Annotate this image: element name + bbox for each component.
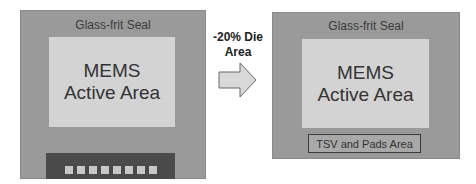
right-active-area: MEMS Active Area [302,39,429,128]
left-active-area: MEMS Active Area [49,37,175,127]
left-active-line1: MEMS [84,60,141,82]
transition-line2: Area [207,45,269,60]
bond-pad [77,166,85,174]
left-pad-bar [46,153,175,179]
bond-pad [149,166,157,174]
right-seal-label: Glass-frit Seal [272,19,460,33]
left-active-line2: Active Area [64,82,160,104]
tsv-pads-area: TSV and Pads Area [308,134,421,153]
left-seal-label: Glass-frit Seal [20,18,206,32]
bond-pad [101,166,109,174]
bond-pad [89,166,97,174]
bond-pad [125,166,133,174]
bond-pad [137,166,145,174]
right-active-line1: MEMS [337,62,394,84]
bond-pad [65,166,73,174]
transition-line1: -20% Die [207,30,269,45]
bond-pad [113,166,121,174]
right-active-line2: Active Area [317,84,413,106]
right-arrow-icon [218,62,258,98]
transition-label: -20% Die Area [207,30,269,60]
